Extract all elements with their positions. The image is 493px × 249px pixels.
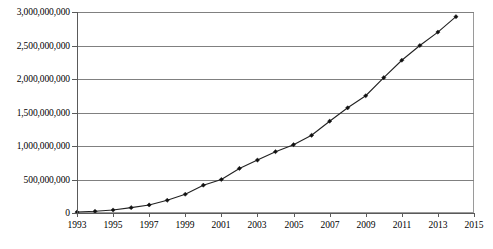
x-axis-tick-5 — [257, 213, 258, 217]
x-axis-label-2007: 2007 — [310, 220, 350, 231]
x-axis-label-1995: 1995 — [93, 220, 133, 231]
y-axis-tick-5 — [72, 46, 77, 47]
y-axis-label-1: 500,000,000 — [2, 175, 70, 185]
data-point-1996 — [129, 206, 133, 210]
x-axis-tick-1 — [113, 213, 114, 217]
x-axis-label-2003: 2003 — [237, 220, 277, 231]
series-line-internet-users — [77, 17, 456, 212]
x-axis-tick-0 — [77, 213, 78, 217]
x-axis-tick-6 — [294, 213, 295, 217]
data-point-2004 — [273, 150, 277, 154]
x-axis-tick-9 — [402, 213, 403, 217]
y-axis-tick-4 — [72, 79, 77, 80]
y-axis-label-slot-0: 0 — [0, 208, 70, 218]
x-axis-label-1999: 1999 — [165, 220, 205, 231]
data-point-1995 — [111, 208, 115, 212]
x-axis-tick-11 — [474, 213, 475, 217]
y-axis-label-slot-1: 500,000,000 — [0, 175, 70, 185]
data-point-1999 — [183, 192, 187, 196]
x-axis-tick-3 — [185, 213, 186, 217]
y-axis-label-slot-6: 3,000,000,000 — [0, 7, 70, 17]
data-point-1997 — [147, 203, 151, 207]
y-axis-tick-2 — [72, 146, 77, 147]
y-axis-label-slot-4: 2,000,000,000 — [0, 74, 70, 84]
x-axis-tick-10 — [438, 213, 439, 217]
y-axis-label-slot-2: 1,000,000,000 — [0, 141, 70, 151]
plot-area — [77, 12, 474, 213]
gridlines — [77, 13, 474, 181]
x-axis-tick-4 — [221, 213, 222, 217]
data-point-2000 — [201, 183, 205, 187]
y-axis-label-3: 1,500,000,000 — [2, 108, 70, 118]
data-point-2003 — [255, 158, 259, 162]
y-axis-line — [77, 12, 78, 214]
x-axis-tick-7 — [330, 213, 331, 217]
y-axis-tick-3 — [72, 113, 77, 114]
x-axis-label-2011: 2011 — [382, 220, 422, 231]
x-axis-label-1993: 1993 — [57, 220, 97, 231]
series-markers — [75, 15, 458, 215]
x-axis-label-1997: 1997 — [129, 220, 169, 231]
y-axis-label-5: 2,500,000,000 — [2, 41, 70, 51]
x-axis-label-2009: 2009 — [346, 220, 386, 231]
y-axis-label-2: 1,000,000,000 — [2, 141, 70, 151]
y-axis-label-0: 0 — [2, 208, 70, 218]
data-point-1998 — [165, 198, 169, 202]
y-axis-label-slot-5: 2,500,000,000 — [0, 41, 70, 51]
x-axis-label-2013: 2013 — [418, 220, 458, 231]
x-axis-line — [77, 213, 475, 214]
y-axis-tick-1 — [72, 180, 77, 181]
y-axis-tick-6 — [72, 12, 77, 13]
y-axis-label-slot-3: 1,500,000,000 — [0, 108, 70, 118]
x-axis-tick-2 — [149, 213, 150, 217]
y-axis-label-6: 3,000,000,000 — [2, 7, 70, 17]
chart-container: 0500,000,0001,000,000,0001,500,000,0002,… — [0, 0, 493, 249]
x-axis-label-2015: 2015 — [454, 220, 493, 231]
x-axis-label-2005: 2005 — [274, 220, 314, 231]
x-axis-label-2001: 2001 — [201, 220, 241, 231]
x-axis-tick-8 — [366, 213, 367, 217]
y-axis-label-4: 2,000,000,000 — [2, 74, 70, 84]
